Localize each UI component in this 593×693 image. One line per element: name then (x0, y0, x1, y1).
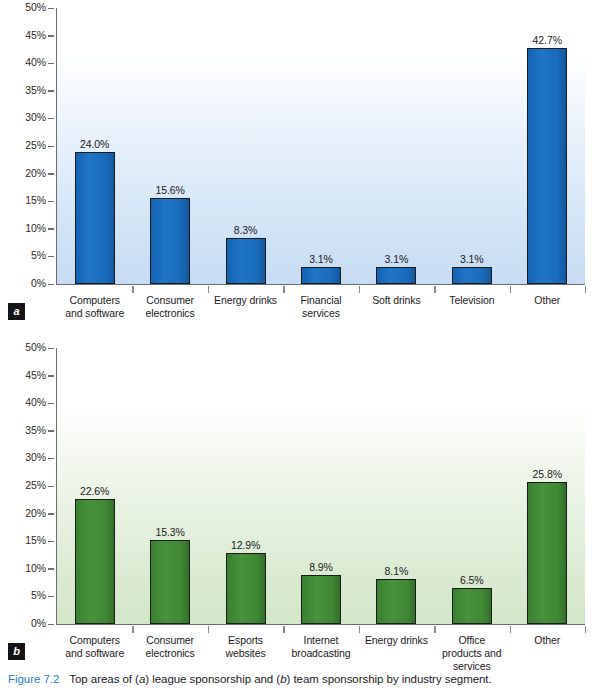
bar-value-label: 8.1% (385, 565, 409, 577)
bar-value-label: 42.7% (533, 34, 562, 46)
bar-slot: 42.7% (510, 8, 585, 284)
x-axis-category-label: Other (510, 294, 585, 320)
y-axis-tick-label: 35% (25, 84, 46, 96)
bar-slot: 6.5% (434, 348, 509, 624)
y-axis-tick-label: 20% (25, 507, 46, 519)
y-axis-tick-mark (48, 430, 54, 432)
x-axis-tick (359, 286, 434, 293)
x-axis-category-label: Esportswebsites (208, 634, 283, 673)
bar-value-label: 25.8% (533, 468, 562, 480)
x-axis-tick (510, 626, 585, 633)
bar[interactable] (226, 553, 266, 624)
y-axis-tick-mark (48, 8, 54, 10)
chart-panel-b: 22.6%15.3%12.9%8.9%8.1%6.5%25.8% 0%5%10%… (0, 338, 593, 668)
bar-series-a: 24.0%15.6%8.3%3.1%3.1%3.1%42.7% (57, 8, 585, 284)
x-axis-labels-a: Computersand softwareConsumerelectronics… (57, 294, 585, 320)
x-axis-tick (132, 626, 207, 633)
x-axis-tick (283, 286, 358, 293)
chart-panel-a: 24.0%15.6%8.3%3.1%3.1%3.1%42.7% 0%5%10%1… (0, 0, 593, 338)
y-axis-tick-label: 10% (25, 222, 46, 234)
chart-b: 22.6%15.3%12.9%8.9%8.1%6.5%25.8% 0%5%10%… (0, 338, 593, 668)
figure-caption: Figure 7.2Top areas of (a) league sponso… (8, 672, 588, 687)
bar[interactable] (75, 152, 115, 284)
bar-value-label: 15.3% (155, 526, 184, 538)
x-axis-tick (57, 286, 132, 293)
caption-text-2: ) league sponsorship and ( (145, 673, 280, 685)
y-axis-tick-label: 25% (25, 479, 46, 491)
x-axis-tick (510, 286, 585, 293)
y-axis-tick-label: 40% (25, 396, 46, 408)
bar[interactable] (150, 198, 190, 284)
bar-slot: 15.3% (132, 348, 207, 624)
bar-value-label: 8.3% (234, 224, 258, 236)
bar-slot: 8.1% (359, 348, 434, 624)
bar-value-label: 8.9% (309, 561, 333, 573)
x-axis-category-label: Soft drinks (359, 294, 434, 320)
y-axis-tick-label: 35% (25, 424, 46, 436)
y-axis-tick-mark (48, 458, 54, 460)
bar-value-label: 24.0% (80, 138, 109, 150)
x-axis-category-label: Internetbroadcasting (283, 634, 358, 673)
bar-value-label: 15.6% (155, 184, 184, 196)
y-axis-tick-mark (48, 228, 54, 230)
y-axis-tick-label: 5% (31, 249, 46, 261)
x-axis-tick (57, 626, 132, 633)
x-tick-end (585, 286, 587, 293)
plot-area-a: 24.0%15.6%8.3%3.1%3.1%3.1%42.7% (57, 8, 585, 285)
y-axis-line-b (56, 348, 58, 625)
bar-slot: 3.1% (359, 8, 434, 284)
bar-slot: 22.6% (57, 348, 132, 624)
x-axis-tick (434, 626, 509, 633)
y-axis-tick-mark (48, 90, 54, 92)
bar-value-label: 22.6% (80, 485, 109, 497)
y-axis-tick-mark (48, 63, 54, 65)
y-axis-tick-mark (48, 596, 54, 598)
x-axis-category-label: Television (434, 294, 509, 320)
y-axis-tick-mark (48, 201, 54, 203)
bar-slot: 24.0% (57, 8, 132, 284)
y-axis-tick-label: 25% (25, 139, 46, 151)
bar[interactable] (527, 482, 567, 624)
x-tick-end (585, 626, 587, 633)
bar[interactable] (226, 238, 266, 284)
bar[interactable] (301, 267, 341, 284)
y-axis-tick-label: 50% (25, 341, 46, 353)
x-axis-category-label: Other (510, 634, 585, 673)
x-axis-labels-b: Computersand softwareConsumerelectronics… (57, 634, 585, 673)
x-axis-tick (208, 286, 283, 293)
y-axis-tick-mark (48, 35, 54, 37)
bar[interactable] (376, 267, 416, 284)
y-axis-tick-label: 50% (25, 1, 46, 13)
bar-value-label: 6.5% (460, 574, 484, 586)
bar[interactable] (150, 540, 190, 624)
y-axis-tick-label: 0% (31, 617, 46, 629)
x-axis-category-label: Energy drinks (208, 294, 283, 320)
x-axis-category-label: Energy drinks (359, 634, 434, 673)
y-axis-tick-mark (48, 403, 54, 405)
y-axis-tick-label: 30% (25, 451, 46, 463)
bar-value-label: 12.9% (231, 539, 260, 551)
x-axis-tick (208, 626, 283, 633)
y-axis-tick-label: 20% (25, 167, 46, 179)
plot-area-b: 22.6%15.3%12.9%8.9%8.1%6.5%25.8% (57, 348, 585, 625)
caption-text-3: ) team sponsorship by industry segment. (287, 673, 492, 685)
figure-number: Figure 7.2 (8, 673, 59, 685)
bar-value-label: 3.1% (309, 253, 333, 265)
bar[interactable] (376, 579, 416, 624)
bar[interactable] (452, 267, 492, 284)
bar-value-label: 3.1% (460, 253, 484, 265)
y-axis-tick-mark (48, 541, 54, 543)
y-axis-tick-label: 15% (25, 534, 46, 546)
y-axis-tick-label: 30% (25, 111, 46, 123)
bar-series-b: 22.6%15.3%12.9%8.9%8.1%6.5%25.8% (57, 348, 585, 624)
bar[interactable] (527, 48, 567, 284)
bar[interactable] (301, 575, 341, 624)
bar[interactable] (75, 499, 115, 624)
bar-slot: 8.9% (283, 348, 358, 624)
bar[interactable] (452, 588, 492, 624)
x-axis-category-label: Consumerelectronics (132, 634, 207, 673)
y-axis-tick-mark (48, 486, 54, 488)
x-axis-category-label: Consumerelectronics (132, 294, 207, 320)
y-axis-tick-mark (48, 348, 54, 350)
bar-slot: 12.9% (208, 348, 283, 624)
